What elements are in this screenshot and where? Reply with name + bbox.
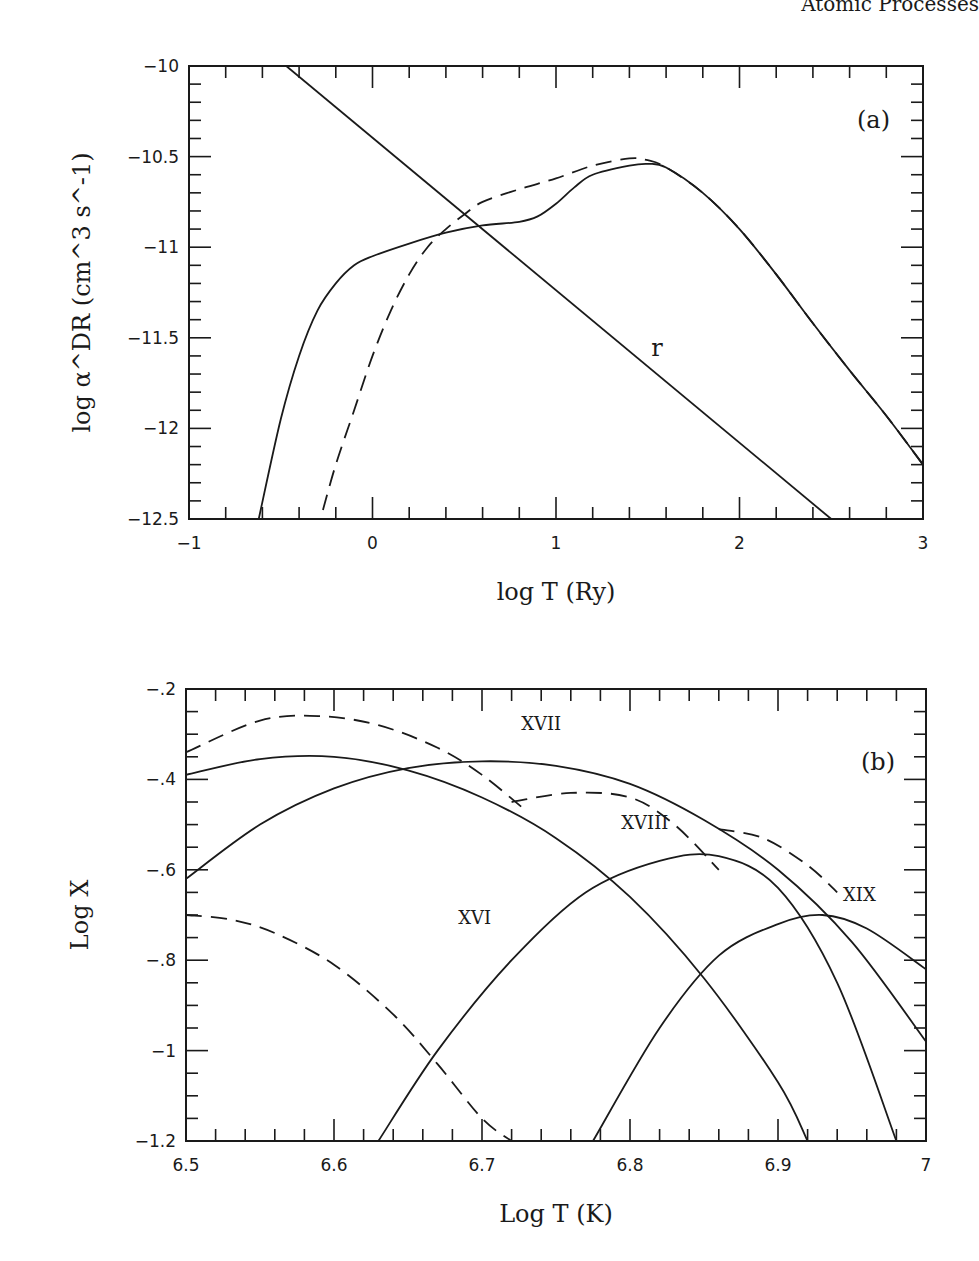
panel-a-chart: −10123−10−10.5−11−11.5−12−12.5r(a)log T … <box>68 56 928 606</box>
y-tick-label: −1.2 <box>135 1131 176 1151</box>
figure: −10123−10−10.5−11−11.5−12−12.5r(a)log T … <box>0 0 979 1261</box>
x-tick-label: 2 <box>734 533 745 553</box>
series-line <box>323 158 923 510</box>
series-line <box>593 915 926 1141</box>
curve-annotation: XVI <box>458 907 491 928</box>
y-tick-label: −1 <box>151 1041 176 1061</box>
x-tick-label: 6.8 <box>616 1155 643 1175</box>
y-tick-label: −11.5 <box>127 328 179 348</box>
y-tick-label: −12.5 <box>127 509 179 529</box>
panel-b-chart: 6.56.66.76.86.97−.2−.4−.6−.8−1−1.2XVIXVI… <box>66 679 931 1228</box>
panel-tag: (a) <box>857 106 890 134</box>
series-line <box>186 761 926 1041</box>
x-tick-label: 7 <box>921 1155 932 1175</box>
y-tick-label: −.2 <box>146 679 176 699</box>
plot-frame <box>189 66 923 519</box>
series-line <box>512 793 719 870</box>
x-tick-label: 0 <box>367 533 378 553</box>
y-tick-label: −.6 <box>146 860 176 880</box>
panel-tag: (b) <box>861 748 895 776</box>
y-tick-label: −10.5 <box>127 147 179 167</box>
x-tick-label: −1 <box>176 533 201 553</box>
y-tick-label: −10 <box>143 56 179 76</box>
series-line <box>286 66 831 519</box>
curve-annotation: XVIII <box>621 812 668 833</box>
x-axis-title: log T (Ry) <box>497 578 616 606</box>
x-tick-label: 6.6 <box>320 1155 347 1175</box>
series-line <box>259 164 923 519</box>
series-line <box>186 915 512 1141</box>
y-axis-title: Log X <box>66 880 94 950</box>
y-tick-label: −.4 <box>146 769 176 789</box>
y-axis-title: log α^DR (cm^3 s^-1) <box>68 152 96 432</box>
series-line <box>378 854 896 1141</box>
x-tick-label: 6.9 <box>764 1155 791 1175</box>
x-tick-label: 6.7 <box>468 1155 495 1175</box>
x-axis-title: Log T (K) <box>499 1200 613 1228</box>
curve-annotation: r <box>651 334 663 362</box>
y-tick-label: −.8 <box>146 950 176 970</box>
y-tick-label: −11 <box>143 237 179 257</box>
x-tick-label: 3 <box>918 533 929 553</box>
x-tick-label: 1 <box>551 533 562 553</box>
x-tick-label: 6.5 <box>172 1155 199 1175</box>
curve-annotation: XIX <box>843 884 876 905</box>
curve-annotation: XVII <box>521 713 561 734</box>
y-tick-label: −12 <box>143 418 179 438</box>
